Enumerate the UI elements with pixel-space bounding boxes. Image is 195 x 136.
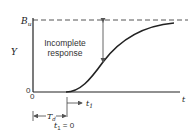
t1-label: t1	[86, 99, 93, 109]
annotation-line2: response	[48, 48, 83, 58]
y-axis-label: Y	[11, 47, 18, 57]
delayed-response-diagram: Bu Y Incomplete response 0 0 t t1 Td t1 …	[0, 0, 195, 136]
t1-equals-zero-label: t1 = 0	[54, 121, 75, 131]
origin-x-label: 0	[30, 92, 35, 101]
x-axis-label: t	[182, 95, 186, 104]
annotation-line1: Incomplete	[44, 38, 86, 48]
upper-bound-label: Bu	[20, 16, 32, 27]
